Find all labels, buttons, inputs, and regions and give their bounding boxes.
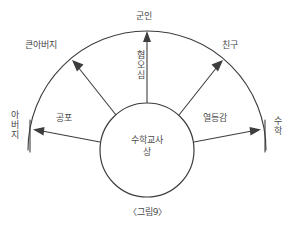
edge-arrowhead-disgust <box>143 31 151 42</box>
figure-container: 아버지 큰아버지 군인 친구 수학 공포 혐오심 열등감 수학교사 상 〈그림9… <box>0 0 295 234</box>
edge-arrowhead-uncle <box>72 60 84 72</box>
edge-label-inferiority: 열등감 <box>203 113 227 123</box>
edge-arrowhead-inferiority <box>250 127 262 136</box>
node-label-father: 아버지 <box>9 110 20 140</box>
edge-line-fear <box>42 131 100 142</box>
node-label-soldier: 군인 <box>136 11 152 21</box>
figure-caption: 〈그림9〉 <box>0 205 295 218</box>
edge-label-fear: 공포 <box>56 113 72 123</box>
node-label-friend: 친구 <box>222 40 238 50</box>
node-label-uncle: 큰아버지 <box>25 40 57 50</box>
diagram-canvas <box>0 0 295 234</box>
edge-arrowhead-fear <box>33 127 45 136</box>
node-label-mathematics: 수학 <box>272 116 283 136</box>
edge-line-friend <box>179 67 217 115</box>
edge-label-disgust: 혐오심 <box>135 50 146 80</box>
edge-line-inferiority <box>194 131 252 142</box>
center-node-label: 수학교사 상 <box>107 134 187 158</box>
edge-line-uncle <box>78 67 116 115</box>
edge-arrowhead-friend <box>212 60 224 72</box>
